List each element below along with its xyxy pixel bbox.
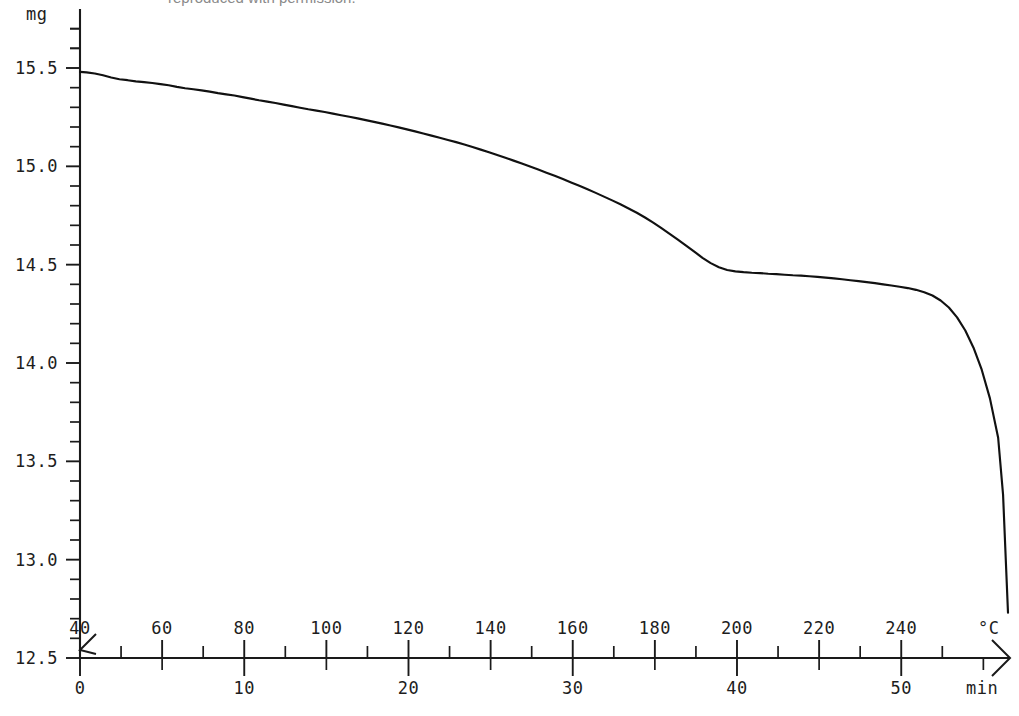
y-tick-label: 15.5 [0,58,58,78]
y-tick-label: 12.5 [0,648,58,668]
time-ticks-group [80,658,983,676]
temperature-tick-label: 60 [151,618,172,638]
temperature-tick-label: 160 [557,618,589,638]
plot-area [0,0,1019,716]
time-tick-label: 30 [562,678,583,698]
temperature-tick-label: 120 [392,618,424,638]
temperature-tick-label: 80 [233,618,254,638]
temperature-tick-label: 200 [721,618,753,638]
time-tick-label: 20 [398,678,419,698]
y-ticks-group [66,29,80,658]
time-tick-label: 40 [726,678,747,698]
time-tick-label: 10 [233,678,254,698]
y-axis-unit-label: mg [26,4,47,24]
temperature-tick-label: 140 [475,618,507,638]
temperature-axis-unit-label: °C [978,618,999,638]
time-tick-label: 50 [890,678,911,698]
y-tick-label: 14.0 [0,353,58,373]
time-tick-label: 0 [75,678,86,698]
temperature-ticks-group [80,640,942,658]
temperature-tick-label: 180 [639,618,671,638]
temperature-tick-label: 220 [803,618,835,638]
tga-chart: reproduced with permission. 12.513.013.5… [0,0,1019,716]
y-tick-label: 14.5 [0,255,58,275]
axes-group [80,10,1010,676]
temperature-tick-label: 40 [69,618,90,638]
y-tick-label: 13.0 [0,550,58,570]
time-axis-unit-label: min [966,678,998,698]
y-tick-label: 15.0 [0,156,58,176]
y-tick-label: 13.5 [0,451,58,471]
temperature-tick-label: 100 [310,618,342,638]
temperature-tick-label: 240 [885,618,917,638]
mass-loss-curve [80,72,1008,613]
